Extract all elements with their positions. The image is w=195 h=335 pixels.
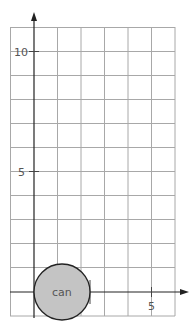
y-axis-arrow-icon [31, 12, 37, 21]
coordinate-diagram: 10 5 5 can [0, 0, 195, 335]
can-label: can [52, 286, 72, 299]
x-tick-label-5: 5 [148, 300, 155, 313]
grid-canvas: 10 5 5 can [0, 0, 195, 335]
y-tick-label-5: 5 [18, 166, 25, 179]
axes [10, 18, 184, 318]
tick-marks [29, 52, 152, 305]
y-tick-label-10: 10 [14, 46, 28, 59]
x-axis-arrow-icon [180, 289, 189, 295]
